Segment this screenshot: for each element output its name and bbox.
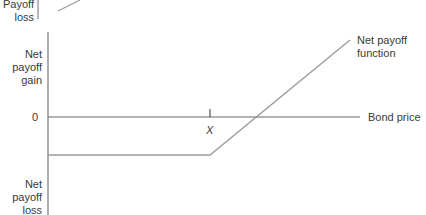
x-axis-label-bond-price: Bond price — [368, 111, 421, 124]
series-label-net-payoff-function: Net payoff function — [357, 34, 407, 60]
net-payoff-function-line — [48, 40, 350, 155]
clipped-payoff-line — [58, 0, 80, 11]
payoff-diagram — [0, 0, 426, 215]
x-marker-label: X — [206, 124, 213, 137]
y-zero-label: 0 — [0, 111, 38, 124]
y-label-net-payoff-gain: Net payoff gain — [0, 48, 42, 87]
y-label-net-payoff-loss: Net payoff loss — [0, 178, 42, 215]
clipped-label-payoff-loss: Payoff loss — [0, 0, 34, 24]
